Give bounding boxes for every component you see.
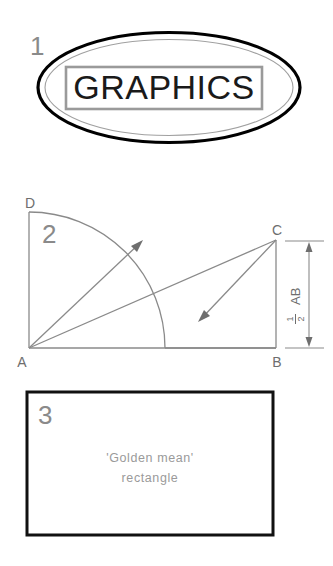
dim-arrowhead-top <box>306 242 313 252</box>
point-label-B: B <box>272 354 281 370</box>
golden-mean-caption-line1: 'Golden mean' <box>106 451 194 465</box>
figure-sheet: 1 GRAPHICS 2 D C A B <box>0 0 333 566</box>
dim-label-group: 1 2 AB <box>285 288 306 324</box>
figure-2-number: 2 <box>42 219 56 249</box>
radius-arrow-from-A <box>29 243 140 348</box>
point-label-C: C <box>272 222 282 238</box>
point-label-D: D <box>25 195 35 211</box>
diagonal-A-to-C <box>29 240 276 348</box>
graphics-label-text: GRAPHICS <box>73 68 255 106</box>
figure-3-number: 3 <box>38 400 52 430</box>
figure-1-number: 1 <box>30 31 44 61</box>
dim-fraction-numerator: 1 <box>285 316 295 321</box>
dim-fraction-denominator: 2 <box>296 316 306 321</box>
radius-arrow-from-C <box>201 240 276 319</box>
golden-mean-caption-line2: rectangle <box>122 471 179 485</box>
figure-2-group: 2 D C A B 1 2 <box>17 195 324 370</box>
figure-3-group: 3 'Golden mean' rectangle <box>27 392 273 535</box>
dim-segment-label: AB <box>288 288 303 305</box>
point-label-A: A <box>17 354 27 370</box>
figure-1-group: 1 GRAPHICS <box>30 31 300 143</box>
dim-arrowhead-bottom <box>306 337 313 347</box>
